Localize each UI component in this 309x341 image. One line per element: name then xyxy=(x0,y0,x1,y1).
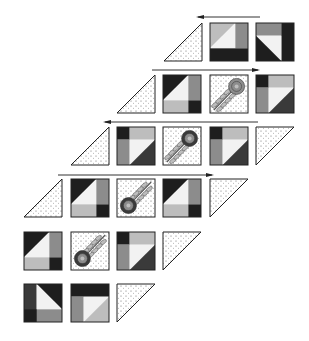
quilt-piece-tri-left xyxy=(164,23,202,61)
quilt-piece-C xyxy=(24,232,62,270)
quilt-piece-E xyxy=(24,284,62,322)
quilt-piece-B xyxy=(256,23,294,61)
row-arrow-right xyxy=(58,173,214,177)
quilt-piece-tri-right xyxy=(256,127,294,165)
quilt-piece-tri-right xyxy=(117,284,155,322)
quilt-piece-flower-down xyxy=(117,179,155,217)
quilt-piece-flower-up xyxy=(210,75,248,113)
row-arrow-right xyxy=(152,68,260,72)
quilt-piece-A xyxy=(210,23,248,61)
quilt-piece-D xyxy=(117,127,155,165)
quilt-piece-tri-left xyxy=(117,75,155,113)
quilt-piece-C xyxy=(163,75,201,113)
row-arrow-left xyxy=(103,120,258,124)
quilt-assembly-diagram xyxy=(0,0,309,341)
row-arrow-left xyxy=(196,15,260,19)
quilt-piece-D xyxy=(117,232,155,270)
quilt-piece-flower-up xyxy=(163,127,201,165)
quilt-piece-tri-left xyxy=(24,179,62,217)
quilt-piece-F xyxy=(71,284,109,322)
quilt-piece-flower-down xyxy=(71,232,109,270)
quilt-piece-C xyxy=(163,179,201,217)
quilt-piece-D xyxy=(210,127,248,165)
quilt-piece-tri-right xyxy=(163,232,201,270)
quilt-piece-tri-left xyxy=(71,127,109,165)
quilt-piece-C xyxy=(71,179,109,217)
quilt-piece-tri-right xyxy=(210,179,248,217)
quilt-piece-D xyxy=(256,75,294,113)
